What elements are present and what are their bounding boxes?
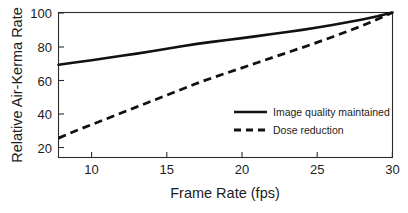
y-tick-label-20: 20 bbox=[38, 141, 52, 156]
chart-legend: Image quality maintained Dose reduction bbox=[234, 106, 390, 136]
legend-label-image-quality-maintained: Image quality maintained bbox=[273, 106, 390, 118]
chart-canvas: 100 80 60 40 20 10 15 20 25 30 Frame Rat… bbox=[0, 0, 408, 213]
x-axis-ticks bbox=[92, 152, 393, 158]
figure-container: 100 80 60 40 20 10 15 20 25 30 Frame Rat… bbox=[0, 0, 408, 213]
x-tick-label-30: 30 bbox=[385, 162, 399, 177]
y-axis-ticks bbox=[59, 13, 65, 148]
series-line-dose-reduction bbox=[59, 13, 393, 139]
x-tick-label-25: 25 bbox=[310, 162, 324, 177]
y-axis-title: Relative Air-Kerma Rate bbox=[9, 7, 25, 163]
series-line-image-quality-maintained bbox=[59, 13, 393, 65]
x-axis-title: Frame Rate (fps) bbox=[170, 185, 280, 201]
x-tick-label-10: 10 bbox=[84, 162, 98, 177]
x-tick-label-15: 15 bbox=[160, 162, 174, 177]
y-tick-label-60: 60 bbox=[38, 74, 52, 89]
y-tick-label-100: 100 bbox=[30, 6, 52, 21]
x-tick-label-20: 20 bbox=[235, 162, 249, 177]
y-tick-label-40: 40 bbox=[38, 107, 52, 122]
y-tick-label-80: 80 bbox=[38, 40, 52, 55]
legend-label-dose-reduction: Dose reduction bbox=[273, 124, 344, 136]
